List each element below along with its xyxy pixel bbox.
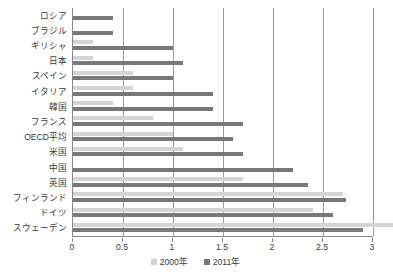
category-axis-labels: ロシアブラジルギリシャ日本スペインイタリア韓国フランスOECD平均米国中国英国フ… bbox=[0, 8, 70, 236]
x-tick-label-2.5: 2.5 bbox=[316, 242, 328, 252]
bar-2011年-フィンランド bbox=[73, 198, 346, 202]
category-label-米国: 米国 bbox=[0, 147, 67, 157]
bar-2000年-ギリシャ bbox=[73, 40, 93, 44]
bar-2011年-OECD平均 bbox=[73, 137, 233, 141]
bar-row bbox=[73, 54, 373, 69]
bar-2000年-フランス bbox=[73, 116, 153, 120]
bar-2000年-OECD平均 bbox=[73, 132, 173, 136]
legend-label: 2000年 bbox=[160, 257, 188, 267]
bar-rows bbox=[73, 8, 373, 236]
bar-row bbox=[73, 38, 373, 53]
bar-2011年-ブラジル bbox=[73, 31, 113, 35]
x-axis-tick-labels: 00.511.522.53 bbox=[0, 238, 391, 252]
bar-row bbox=[73, 114, 373, 129]
x-axis-line bbox=[72, 236, 373, 237]
bar-2000年-米国 bbox=[73, 147, 183, 151]
x-tick-label-0.5: 0.5 bbox=[116, 242, 128, 252]
bar-row bbox=[73, 130, 373, 145]
bar-2000年-フィンランド bbox=[73, 192, 343, 196]
bar-row bbox=[73, 8, 373, 23]
category-label-スウェーデン: スウェーデン bbox=[0, 223, 67, 233]
legend-item-2000年[interactable]: 2000年 bbox=[151, 257, 188, 267]
category-label-フランス: フランス bbox=[0, 117, 67, 127]
bar-2000年-英国 bbox=[73, 177, 243, 181]
x-tick-label-1: 1 bbox=[170, 242, 175, 252]
category-label-OECD平均: OECD平均 bbox=[0, 132, 67, 142]
bar-row bbox=[73, 99, 373, 114]
bar-2011年-ギリシャ bbox=[73, 46, 173, 50]
bar-row bbox=[73, 175, 373, 190]
bar-2011年-米国 bbox=[73, 152, 243, 156]
bar-2000年-スウェーデン bbox=[73, 223, 393, 227]
bar-row bbox=[73, 221, 373, 236]
bar-2011年-スペイン bbox=[73, 76, 173, 80]
category-label-ロシア: ロシア bbox=[0, 11, 67, 21]
category-label-英国: 英国 bbox=[0, 178, 67, 188]
x-tick-label-2: 2 bbox=[270, 242, 275, 252]
bar-2011年-日本 bbox=[73, 61, 183, 65]
plot-area bbox=[72, 8, 373, 236]
legend-swatch-icon bbox=[204, 259, 210, 265]
bar-2011年-韓国 bbox=[73, 107, 213, 111]
bar-row bbox=[73, 160, 373, 175]
bar-row bbox=[73, 190, 373, 205]
bar-2011年-フランス bbox=[73, 122, 243, 126]
bar-2000年-ドイツ bbox=[73, 208, 313, 212]
bar-2011年-スウェーデン bbox=[73, 228, 363, 232]
bar-row bbox=[73, 23, 373, 38]
bar-2000年-イタリア bbox=[73, 86, 133, 90]
category-label-イタリア: イタリア bbox=[0, 87, 67, 97]
bar-row bbox=[73, 69, 373, 84]
legend-swatch-icon bbox=[151, 259, 157, 265]
bar-2011年-英国 bbox=[73, 183, 308, 187]
legend-item-2011年[interactable]: 2011年 bbox=[204, 257, 240, 267]
bar-2011年-ドイツ bbox=[73, 213, 333, 217]
bar-row bbox=[73, 145, 373, 160]
category-label-中国: 中国 bbox=[0, 163, 67, 173]
bar-2011年-イタリア bbox=[73, 92, 213, 96]
category-label-フィンランド: フィンランド bbox=[0, 193, 67, 203]
bar-2000年-韓国 bbox=[73, 101, 113, 105]
legend-label: 2011年 bbox=[213, 257, 240, 267]
category-label-韓国: 韓国 bbox=[0, 102, 67, 112]
category-label-日本: 日本 bbox=[0, 56, 67, 66]
bar-row bbox=[73, 84, 373, 99]
chart-legend: 2000年2011年 bbox=[0, 257, 391, 267]
category-label-スペイン: スペイン bbox=[0, 71, 67, 81]
category-label-ギリシャ: ギリシャ bbox=[0, 41, 67, 51]
bar-2011年-中国 bbox=[73, 168, 293, 172]
x-tick-label-3: 3 bbox=[370, 242, 375, 252]
bar-2000年-スペイン bbox=[73, 71, 133, 75]
category-label-ブラジル: ブラジル bbox=[0, 26, 67, 36]
x-tick-label-0: 0 bbox=[70, 242, 75, 252]
category-label-ドイツ: ドイツ bbox=[0, 208, 67, 218]
x-tick-label-1.5: 1.5 bbox=[216, 242, 228, 252]
bar-row bbox=[73, 206, 373, 221]
bar-2011年-ロシア bbox=[73, 16, 113, 20]
bar-2000年-日本 bbox=[73, 56, 93, 60]
gridline bbox=[373, 8, 374, 236]
